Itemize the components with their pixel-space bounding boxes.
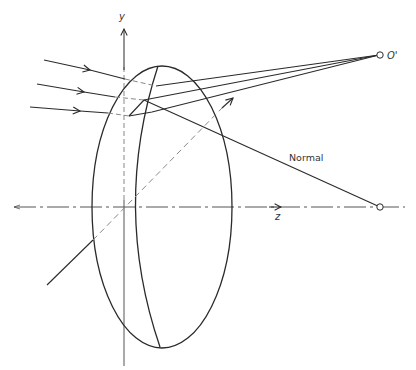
incident-ray-2: [84, 92, 115, 97]
incident-ray-2-arrow: [37, 84, 84, 92]
z-axis-label: z: [274, 211, 281, 222]
diagonal-axis-arrow: [222, 98, 233, 108]
normal-label: Normal: [289, 152, 323, 163]
points: [377, 52, 383, 210]
incident-ray-1: [90, 70, 125, 79]
refracted-ray-2: [144, 55, 379, 100]
diagonal-axis-hidden: [93, 108, 222, 240]
incident-ray-2-hidden: [115, 97, 144, 100]
incident-ray-3: [80, 111, 108, 113]
refracted-ray-1: [156, 55, 379, 86]
diagonal-axis: [47, 98, 233, 285]
diagram-svg: y z O' Normal: [0, 0, 416, 370]
lens-diagram: y z O' Normal: [0, 0, 416, 370]
image-point-marker: [377, 52, 383, 58]
diagonal-axis-solid: [47, 240, 93, 285]
incident-ray-1-arrow: [44, 60, 90, 70]
z-axis: [14, 205, 405, 209]
normal-line: [144, 100, 380, 207]
image-point-label: O': [387, 50, 398, 61]
y-axis-label: y: [118, 11, 126, 22]
refracted-rays: [129, 55, 379, 116]
normal-line-segment: [144, 100, 380, 207]
incident-ray-3-hidden: [108, 113, 129, 116]
refracted-ray-4: [129, 55, 379, 116]
incident-ray-3-arrow: [30, 107, 80, 111]
center-of-curvature-marker: [377, 204, 383, 210]
